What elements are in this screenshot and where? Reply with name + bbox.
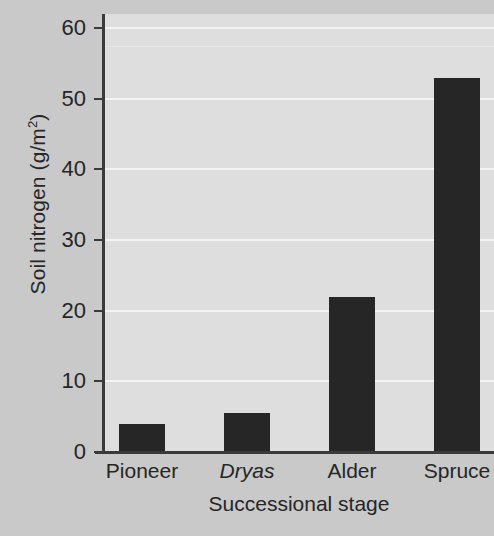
bar-dryas xyxy=(224,413,270,452)
y-axis-title-tail: ) xyxy=(26,114,49,121)
bar-pioneer xyxy=(119,424,165,452)
y-axis-title-text: Soil nitrogen (g/m xyxy=(26,128,49,294)
x-label-alder: Alder xyxy=(292,459,412,483)
x-axis-title: Successional stage xyxy=(104,492,494,516)
plot-area xyxy=(104,14,494,452)
y-tick-10 xyxy=(94,380,104,382)
y-axis-line xyxy=(102,14,105,454)
x-label-spruce: Spruce xyxy=(397,459,494,483)
bar-chart-figure: Soil nitrogen (g/m2) 0102030405060 Pione… xyxy=(0,0,494,536)
y-tick-0 xyxy=(94,451,104,453)
y-tick-label-30: 30 xyxy=(40,229,86,251)
y-tick-label-50: 50 xyxy=(40,88,86,110)
x-axis-line xyxy=(95,451,494,454)
y-tick-label-0: 0 xyxy=(40,441,86,463)
bar-spruce xyxy=(434,78,480,452)
x-label-dryas: Dryas xyxy=(187,459,307,483)
gridline-artifact xyxy=(104,46,494,47)
y-tick-label-20: 20 xyxy=(40,300,86,322)
y-tick-60 xyxy=(94,27,104,29)
y-tick-label-10: 10 xyxy=(40,370,86,392)
x-label-pioneer: Pioneer xyxy=(82,459,202,483)
y-tick-50 xyxy=(94,98,104,100)
y-tick-label-60: 60 xyxy=(40,17,86,39)
y-tick-20 xyxy=(94,310,104,312)
y-axis-title: Soil nitrogen (g/m2) xyxy=(26,74,50,334)
bar-alder xyxy=(329,297,375,452)
y-tick-40 xyxy=(94,168,104,170)
gridline-60 xyxy=(104,27,494,29)
y-tick-label-40: 40 xyxy=(40,158,86,180)
y-axis-title-superscript: 2 xyxy=(25,121,40,128)
y-tick-30 xyxy=(94,239,104,241)
